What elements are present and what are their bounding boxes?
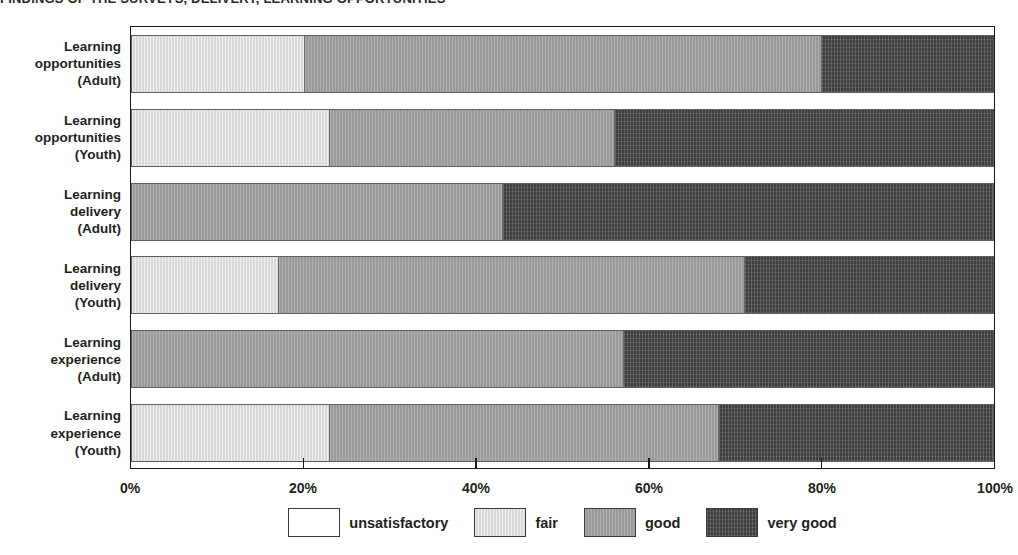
category-label-line: experience (50, 425, 121, 442)
category-label-line: (Youth) (75, 442, 121, 459)
category-label-line: Learning (64, 38, 121, 55)
bar-segment-good (278, 256, 744, 314)
chart-row: Learningexperience(Youth) (131, 396, 994, 470)
category-label-line: experience (50, 351, 121, 368)
x-axis-tick-label: 100% (977, 480, 1013, 496)
x-axis-tick-label: 60% (635, 480, 663, 496)
legend-label: good (645, 515, 680, 531)
bar-segment-fair (131, 109, 329, 167)
page-title: FINDINGS OF THE SURVEYS, DELIVERY, LEARN… (0, 0, 760, 6)
stacked-bar (131, 330, 994, 388)
bar-segment-fair (131, 256, 278, 314)
legend-swatch-icon (706, 508, 758, 537)
category-label-line: (Adult) (78, 72, 121, 89)
category-label-line: (Adult) (78, 368, 121, 385)
stacked-bar (131, 109, 994, 167)
chart-row: Learningopportunities(Youth) (131, 101, 994, 175)
legend-item[interactable]: fair (474, 508, 558, 537)
bar-segment-good (131, 330, 623, 388)
legend-swatch-icon (474, 508, 526, 537)
category-label-line: opportunities (35, 129, 121, 146)
bar-segment-good (304, 35, 822, 93)
x-axis-tick-label: 80% (808, 480, 836, 496)
bar-segment-good (329, 109, 614, 167)
category-label-line: delivery (70, 203, 121, 220)
category-label-line: Learning (64, 260, 121, 277)
category-label: Learningdelivery(Youth) (0, 249, 121, 323)
chart-row: Learningdelivery(Youth) (131, 249, 994, 323)
legend-label: fair (535, 515, 558, 531)
bar-segment-very-good (744, 256, 994, 314)
x-axis-tick-label: 40% (462, 480, 490, 496)
category-label-line: Learning (64, 407, 121, 424)
bar-segment-very-good (718, 404, 994, 462)
category-label-line: (Adult) (78, 220, 121, 237)
legend-item[interactable]: good (584, 508, 680, 537)
x-axis-tick (303, 458, 305, 469)
chart-legend: unsatisfactoryfairgoodvery good (130, 508, 995, 537)
x-axis-tick-label: 20% (289, 480, 317, 496)
stacked-bar (131, 35, 994, 93)
legend-swatch-icon (584, 508, 636, 537)
chart-plot-area: Learningopportunities(Adult)Learningoppo… (130, 26, 995, 469)
bar-segment-very-good (614, 109, 994, 167)
category-label: Learningexperience(Adult) (0, 322, 121, 396)
stacked-bar (131, 404, 994, 462)
category-label-line: (Youth) (75, 146, 121, 163)
category-label-line: (Youth) (75, 294, 121, 311)
legend-item[interactable]: unsatisfactory (288, 508, 448, 537)
x-axis-tick (475, 458, 477, 469)
bar-segment-very-good (623, 330, 994, 388)
stacked-bar (131, 256, 994, 314)
chart-row: Learningexperience(Adult) (131, 322, 994, 396)
bar-segment-very-good (502, 183, 994, 241)
category-label-line: opportunities (35, 55, 121, 72)
category-label: Learningexperience(Youth) (0, 396, 121, 470)
category-label: Learningdelivery(Adult) (0, 175, 121, 249)
category-label-line: delivery (70, 277, 121, 294)
legend-label: unsatisfactory (349, 515, 448, 531)
category-label-line: Learning (64, 186, 121, 203)
chart-row: Learningopportunities(Adult) (131, 27, 994, 101)
category-label: Learningopportunities(Youth) (0, 101, 121, 175)
legend-swatch-icon (288, 508, 340, 537)
legend-label: very good (767, 515, 836, 531)
x-axis-tick (821, 458, 823, 469)
category-label-line: Learning (64, 112, 121, 129)
bar-segment-fair (131, 35, 304, 93)
bar-segment-good (131, 183, 502, 241)
bar-segment-very-good (821, 35, 994, 93)
category-label: Learningopportunities(Adult) (0, 27, 121, 101)
stacked-bar (131, 183, 994, 241)
category-label-line: Learning (64, 334, 121, 351)
x-axis-tick (648, 458, 650, 469)
bar-segment-good (329, 404, 717, 462)
legend-item[interactable]: very good (706, 508, 836, 537)
chart-row: Learningdelivery(Adult) (131, 175, 994, 249)
x-axis-tick-label: 0% (120, 480, 140, 496)
bar-segment-fair (131, 404, 329, 462)
